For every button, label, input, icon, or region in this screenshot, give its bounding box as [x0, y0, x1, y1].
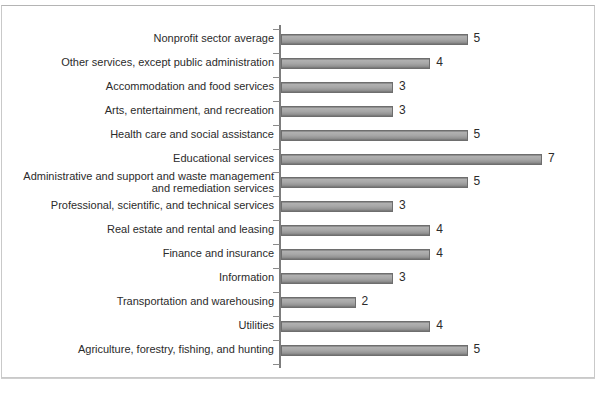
bar-track: 3 [281, 100, 600, 124]
category-label: Agriculture, forestry, fishing, and hunt… [6, 343, 274, 355]
category-label: Transportation and warehousing [6, 295, 274, 307]
bar-track: 5 [281, 28, 600, 52]
bar-track: 4 [281, 315, 600, 339]
bar [281, 130, 468, 141]
bar-row: Arts, entertainment, and recreation3 [0, 100, 600, 124]
bar-value-label: 5 [474, 127, 481, 142]
bar [281, 225, 430, 236]
bar [281, 82, 393, 93]
bar-value-label: 4 [436, 55, 443, 70]
bar-row: Accommodation and food services3 [0, 76, 600, 100]
bar-track: 5 [281, 124, 600, 148]
bar-track: 2 [281, 291, 600, 315]
category-label: Information [6, 271, 274, 283]
bar-row: Educational services7 [0, 148, 600, 172]
bar-value-label: 4 [436, 246, 443, 261]
bar-track: 7 [281, 148, 600, 172]
bar [281, 201, 393, 212]
bar-row: Administrative and support and waste man… [0, 171, 600, 195]
bar-value-label: 5 [474, 174, 481, 189]
category-label: Other services, except public administra… [6, 56, 274, 68]
bar-row: Nonprofit sector average5 [0, 28, 600, 52]
bar-value-label: 3 [399, 270, 406, 285]
category-label: Accommodation and food services [6, 80, 274, 92]
bar-value-label: 4 [436, 318, 443, 333]
category-label: Professional, scientific, and technical … [6, 199, 274, 211]
bar-row: Utilities4 [0, 315, 600, 339]
bar-value-label: 5 [474, 31, 481, 46]
bar-row: Real estate and rental and leasing4 [0, 219, 600, 243]
category-label: Nonprofit sector average [6, 32, 274, 44]
bar [281, 249, 430, 260]
category-label: Utilities [6, 319, 274, 331]
category-label: Arts, entertainment, and recreation [6, 104, 274, 116]
bar-value-label: 5 [474, 342, 481, 357]
bar [281, 106, 393, 117]
bar [281, 34, 468, 45]
bar-track: 3 [281, 195, 600, 219]
category-label: Educational services [6, 152, 274, 164]
category-label: Health care and social assistance [6, 128, 274, 140]
plot-area: Nonprofit sector average5Other services,… [0, 0, 600, 395]
bar-value-label: 7 [548, 151, 555, 166]
bar-value-label: 4 [436, 222, 443, 237]
page-bottom-rule [1, 378, 595, 379]
bar-track: 4 [281, 219, 600, 243]
bar [281, 273, 393, 284]
bar-track: 5 [281, 339, 600, 363]
bar-track: 5 [281, 171, 600, 195]
axis-tick [273, 364, 280, 365]
bar [281, 321, 430, 332]
bar-value-label: 3 [399, 79, 406, 94]
bar-row: Transportation and warehousing2 [0, 291, 600, 315]
bar-track: 4 [281, 52, 600, 76]
bar-row: Information3 [0, 267, 600, 291]
bar [281, 177, 468, 188]
bar-value-label: 3 [399, 198, 406, 213]
bar [281, 58, 430, 69]
bar-row: Agriculture, forestry, fishing, and hunt… [0, 339, 600, 363]
bar-value-label: 2 [362, 294, 369, 309]
bar [281, 154, 542, 165]
bar [281, 297, 356, 308]
bar-row: Other services, except public administra… [0, 52, 600, 76]
category-label: Real estate and rental and leasing [6, 223, 274, 235]
category-label: Finance and insurance [6, 247, 274, 259]
bar-row: Professional, scientific, and technical … [0, 195, 600, 219]
bar-track: 3 [281, 76, 600, 100]
chart-screenshot: Nonprofit sector average5Other services,… [0, 0, 600, 395]
bar-track: 3 [281, 267, 600, 291]
bar-track: 4 [281, 243, 600, 267]
category-label: Administrative and support and waste man… [6, 170, 274, 194]
bar-row: Health care and social assistance5 [0, 124, 600, 148]
bar [281, 345, 468, 356]
bar-value-label: 3 [399, 103, 406, 118]
bar-row: Finance and insurance4 [0, 243, 600, 267]
